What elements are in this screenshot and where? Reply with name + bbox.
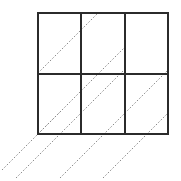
grid-diagonals-diagram <box>0 0 181 181</box>
figure-root <box>0 0 181 181</box>
figure-background <box>0 0 181 181</box>
